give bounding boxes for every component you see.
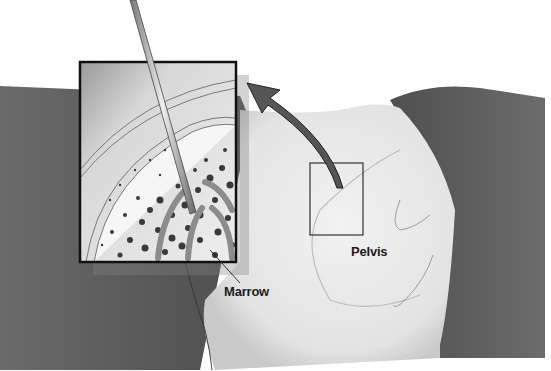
marrow-label: Marrow [224, 284, 269, 299]
pelvis-label: Pelvis [351, 244, 387, 259]
biopsy-illustration [0, 0, 551, 371]
illustration: Marrow Pelvis [0, 0, 551, 371]
